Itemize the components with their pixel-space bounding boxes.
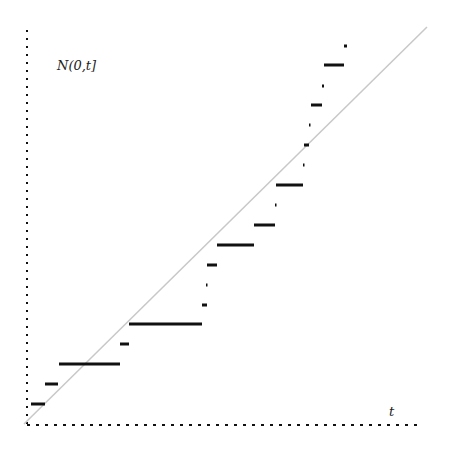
step-segments bbox=[31, 46, 347, 404]
y-axis-label: N(0,t] bbox=[57, 58, 96, 73]
x-axis-label: t bbox=[389, 404, 394, 419]
